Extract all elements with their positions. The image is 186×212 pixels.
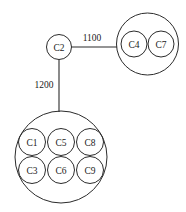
edge-label-1200: 1200 — [35, 80, 54, 90]
edge-label-1100: 1100 — [83, 33, 102, 43]
cluster-right[interactable]: C4 C7 — [117, 13, 179, 75]
node-c3-label: C3 — [26, 166, 37, 176]
node-c2[interactable]: C2 — [47, 35, 72, 60]
diagram-root: 1100 1200 C2 C4 C7 C1 — [0, 0, 186, 212]
cluster-bottom[interactable]: C1 C5 C8 C3 C6 C9 — [15, 111, 107, 203]
node-c8-label: C8 — [84, 138, 95, 148]
node-c1-label: C1 — [26, 138, 37, 148]
node-c7[interactable]: C7 — [148, 31, 174, 57]
diagram-canvas: 1100 1200 C2 C4 C7 C1 — [0, 0, 186, 212]
node-c2-label: C2 — [53, 43, 64, 53]
node-c1[interactable]: C1 — [19, 129, 46, 156]
node-c4[interactable]: C4 — [121, 31, 147, 57]
node-c6-label: C6 — [55, 166, 66, 176]
node-c9-label: C9 — [84, 166, 95, 176]
node-c6[interactable]: C6 — [48, 157, 75, 184]
node-c5-label: C5 — [55, 138, 66, 148]
node-c4-label: C4 — [128, 40, 139, 50]
edge-group — [59, 47, 117, 112]
node-c8[interactable]: C8 — [77, 129, 104, 156]
node-c3[interactable]: C3 — [19, 157, 46, 184]
node-c7-label: C7 — [155, 40, 166, 50]
node-c5[interactable]: C5 — [48, 129, 75, 156]
edge-label-group: 1100 1200 — [35, 33, 102, 90]
node-c9[interactable]: C9 — [77, 157, 104, 184]
